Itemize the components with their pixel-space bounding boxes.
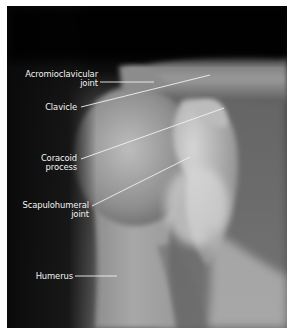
label-line: joint	[7, 210, 89, 219]
label-coracoid-process: Coracoid process	[9, 154, 77, 172]
label-clavicle: Clavicle	[9, 103, 77, 112]
xray-figure: Acromioclavicular joint Clavicle Coracoi…	[7, 6, 287, 328]
label-humerus: Humerus	[9, 272, 73, 281]
label-line: joint	[8, 79, 98, 88]
label-line: Humerus	[9, 272, 73, 281]
label-acromioclavicular-joint: Acromioclavicular joint	[8, 70, 98, 88]
label-line: Clavicle	[9, 103, 77, 112]
label-line: process	[9, 163, 77, 172]
label-scapulohumeral-joint: Scapulohumeral joint	[7, 201, 89, 219]
